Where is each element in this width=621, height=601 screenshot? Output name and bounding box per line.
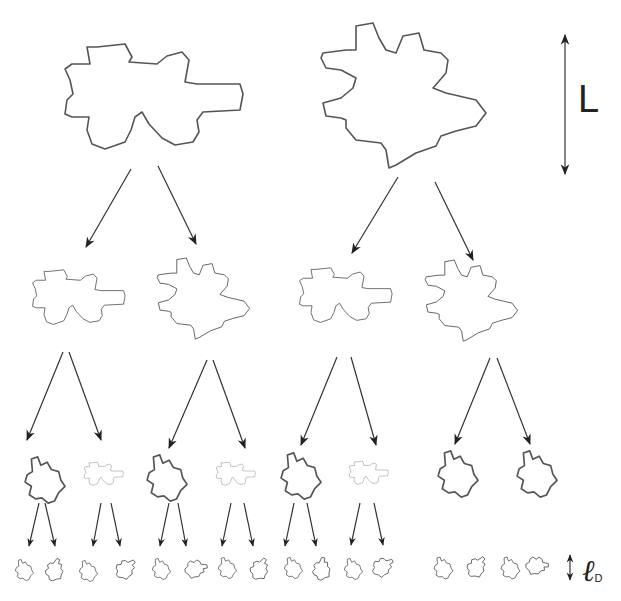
particle-L3-5 [152, 558, 170, 579]
particle-L2-1 [25, 457, 65, 503]
particle-L2-8 [517, 451, 557, 497]
level-2 [25, 451, 557, 503]
particle-L3-10 [309, 555, 336, 584]
small-scale-subscript: D [595, 572, 603, 584]
small-scale-label: ℓD [582, 553, 602, 588]
particle-L2-5 [281, 453, 321, 499]
particle-L0-1 [65, 44, 243, 149]
particle-L3-6 [183, 558, 208, 581]
particle-L1-4 [425, 260, 517, 341]
arrows-level-1-to-2 [27, 352, 530, 448]
particle-L2-6 [349, 461, 388, 484]
particle-L3-4 [113, 557, 140, 582]
level-0 [65, 23, 486, 168]
particle-L3-7 [218, 557, 236, 578]
level-1 [33, 258, 518, 341]
arrows-level-2-to-3 [29, 503, 383, 546]
particle-L3-14 [463, 554, 492, 581]
particle-L3-8 [246, 555, 275, 584]
small-scale-symbol: ℓ [582, 553, 595, 588]
particle-L2-7 [438, 451, 478, 497]
fragmentation-diagram [0, 0, 621, 601]
length-scale-label: L [578, 78, 599, 121]
particle-L3-2 [41, 556, 70, 585]
particle-L3-1 [15, 559, 33, 580]
particle-L2-4 [216, 462, 255, 485]
particle-L3-3 [79, 560, 97, 581]
particle-L1-1 [33, 270, 126, 325]
particle-L3-15 [501, 557, 520, 579]
particle-L0-2 [321, 23, 486, 168]
particle-L2-3 [147, 455, 187, 501]
particle-L3-13 [434, 557, 453, 579]
particle-L1-3 [300, 268, 393, 323]
particle-L1-2 [157, 258, 249, 339]
particle-L2-2 [84, 462, 123, 485]
arrows-level-0-to-1 [86, 166, 473, 260]
particle-L3-12 [371, 556, 396, 579]
particle-L3-11 [344, 558, 362, 579]
particle-L3-16 [523, 554, 550, 579]
level-3 [15, 554, 550, 585]
particle-L3-9 [284, 557, 302, 578]
